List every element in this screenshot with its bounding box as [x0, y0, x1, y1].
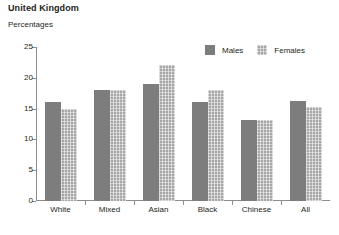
- bar-chinese-males: [241, 120, 257, 201]
- y-tick-label: 20: [24, 74, 33, 82]
- x-axis-label: Asian: [134, 205, 183, 219]
- x-axis-labels: WhiteMixedAsianBlackChineseAll: [36, 205, 330, 219]
- bar-group: [232, 47, 281, 201]
- y-tick-label: 0: [29, 197, 33, 205]
- chart-subtitle: Percentages: [8, 20, 53, 29]
- y-tick-label: 10: [24, 135, 33, 143]
- y-tick-label: 15: [24, 105, 33, 113]
- bar-white-males: [45, 102, 61, 201]
- x-axis-label: White: [36, 205, 85, 219]
- bar-all-males: [290, 101, 306, 201]
- bar-group: [134, 47, 183, 201]
- bar-group: [85, 47, 134, 201]
- x-axis-label: Mixed: [85, 205, 134, 219]
- bar-group: [281, 47, 330, 201]
- x-axis-label: Black: [183, 205, 232, 219]
- x-axis-label: Chinese: [232, 205, 281, 219]
- bar-black-males: [192, 102, 208, 201]
- bar-asian-females: [159, 65, 175, 201]
- chart-container: United Kingdom Percentages Males Females…: [0, 0, 339, 235]
- bar-chinese-females: [257, 120, 273, 201]
- bar-all-females: [306, 107, 322, 201]
- y-tick-label: 5: [29, 166, 33, 174]
- bar-mixed-females: [110, 90, 126, 201]
- bar-white-females: [61, 109, 77, 201]
- page-title: United Kingdom: [8, 3, 79, 13]
- y-tick-label: 25: [24, 43, 33, 51]
- bar-groups: [36, 47, 330, 201]
- bar-group: [36, 47, 85, 201]
- plot-area: 0510152025: [36, 47, 330, 201]
- x-axis-label: All: [281, 205, 330, 219]
- bar-asian-males: [143, 84, 159, 201]
- bar-black-females: [208, 90, 224, 201]
- bar-mixed-males: [94, 90, 110, 201]
- bar-group: [183, 47, 232, 201]
